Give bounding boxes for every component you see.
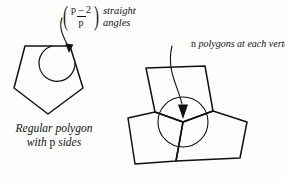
caption-prefix: with (27, 136, 50, 148)
caption-suffix: sides (55, 136, 81, 148)
formula-right-paren: ) (94, 3, 99, 30)
fraction-denominator: p (77, 16, 86, 28)
caption-line-2: with p sides (10, 135, 98, 149)
straight-angles-line1: straight (103, 5, 136, 17)
right-figure-caption: n polygons at each vertex (191, 38, 285, 49)
vertex-arrow-head-icon (178, 105, 188, 120)
pentagon-right-lower-shape (176, 111, 247, 161)
formula-left-paren: ( (63, 3, 68, 30)
caption-line-1: Regular polygon (10, 121, 98, 135)
geometry-figure (0, 0, 285, 181)
vertex-pointer-arrow-icon (170, 46, 182, 104)
pentagon-left-lower-shape (128, 112, 183, 164)
straight-angles-label: straight angles (103, 5, 136, 29)
straight-angles-line2: angles (103, 17, 136, 29)
pentagon-left-shape (14, 46, 83, 114)
right-caption-text: polygons at each vertex (196, 38, 285, 49)
formula-fraction: p – 2 p (69, 5, 93, 28)
left-figure-caption: Regular polygon with p sides (10, 121, 98, 149)
fraction-numerator: p – 2 (69, 5, 93, 16)
angle-formula: ( p – 2 p ) (61, 3, 101, 30)
